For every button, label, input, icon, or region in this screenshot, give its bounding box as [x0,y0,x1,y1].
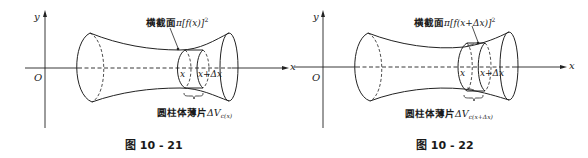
y-axis-label: y [313,12,319,22]
x-axis-label: x [569,61,575,71]
cross-section-label: 横截面π[f(x)]2 [146,13,208,29]
slab-label: 圆柱体薄片ΔVc(x+Δx) [405,104,493,120]
left-end-front [77,33,92,102]
right-end [220,33,238,101]
figure-10-22: y x O x x+Δx 横截面π[f(x+Δx)]2 圆柱体薄片ΔVc(x+Δ… [294,0,588,158]
figure-caption: 图 10 - 22 [416,136,474,152]
left-end-back [90,33,104,102]
y-axis-label: y [34,12,40,22]
origin-label: O [312,73,320,83]
bottom-profile [92,88,229,102]
slab-label: 圆柱体薄片ΔVc(x) [157,103,232,119]
slice-left-back [185,50,191,88]
slice-left-label: x [180,70,185,79]
pointer-dot-icon [477,42,480,45]
y-axis-arrow-icon [321,10,325,17]
cross-section-label: 横截面π[f(x+Δx)]2 [414,13,495,29]
pointer-dot-icon [177,48,180,51]
slice-right-label: x+Δx [480,69,504,78]
cross-section-pointer [170,28,178,48]
origin-label: O [34,73,42,83]
x-axis-arrow-icon [282,66,289,70]
top-profile [90,33,229,50]
bottom-profile [370,88,509,101]
slice-left-label: x [460,69,465,78]
figure-caption: 图 10 - 21 [125,136,183,152]
slab-brace-icon [464,95,483,101]
slice-right-label: x+Δx [198,70,222,79]
figure-10-21: y x O x x+Δx 横截面π[f(x)]2 圆柱体薄片ΔVc(x) 图 1… [0,0,294,158]
top-profile [368,32,509,48]
right-end [500,32,518,100]
y-axis-arrow-icon [43,10,47,17]
x-axis-arrow-icon [560,65,567,69]
slab-brace-icon [184,93,203,99]
